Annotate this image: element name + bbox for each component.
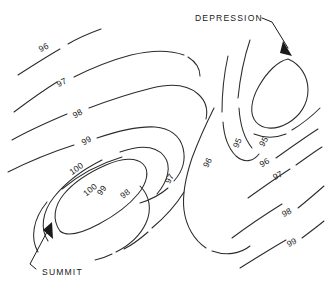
contour-96-saddle-loop-b [212,246,250,254]
contour-elevation-label-95-10: 95 [231,136,244,149]
depression-callout: DEPRESSION [195,13,292,56]
contour-elevation-label-95-11: 95 [257,135,271,149]
contour-97-saddle-left [152,192,184,228]
contour-98-lower-tail [95,254,112,260]
contour-97-saddle-left-b [124,232,148,249]
closed-contours-group [55,59,308,234]
contour-map-canvas: 9697989910010099989796959596979899 DEPRE… [0,0,326,286]
contour-elevation-label-96-9: 96 [201,156,214,169]
contour-elevation-label-99-6: 99 [95,183,109,197]
contour-elevation-label-96-0: 96 [37,41,50,54]
contour-map-figure: 9697989910010099989796959596979899 DEPRE… [0,0,326,286]
contour-97-upper-right [188,57,200,76]
contour-100-outer-summit-b [120,147,168,194]
contour-95-left-branch [222,56,228,112]
contour-labels-group: 9697989910010099989796959596979899 [37,41,298,249]
summit-leader-line [30,232,47,269]
contour-98-right-edge-b [298,186,324,208]
contour-97-upper-left-b [74,51,184,77]
contour-elevation-label-98-14: 98 [280,206,293,219]
contour-96-depression-outer-b [292,108,320,130]
contour-99-right-edge-b [302,221,324,238]
contour-elevation-label-96-12: 96 [258,156,272,170]
contour-96-upper-left-a [18,49,60,75]
contour-97-right-edge-b [296,147,322,165]
contour-95-mid-vertical [238,40,250,98]
contour-99-right-edge [240,240,286,268]
contour-98-right-edge [232,204,282,238]
depression-arrow-icon [280,41,292,56]
contour-97-right-edge [248,169,290,198]
contour-elevation-label-99-3: 99 [80,134,94,148]
contour-elevation-label-98-7: 98 [118,187,132,201]
contour-97-upper-left-a [14,82,57,112]
depression-label: DEPRESSION [195,13,263,23]
contour-elevation-label-98-2: 98 [71,107,85,121]
contour-98-upper-left-a [12,114,67,140]
contour-elevation-label-97-1: 97 [55,76,68,89]
contour-96-saddle-loop [183,108,214,248]
contour-96-upper-left-b [68,29,101,44]
summit-callout: SUMMIT [30,222,83,277]
summit-label: SUMMIT [42,267,83,277]
contour-99-left-a [8,145,74,172]
contour-99-left-b [97,127,184,181]
contour-96-depression-outer [254,134,286,137]
contour-95-depression-closed [252,59,308,128]
contour-98-upper-left-b [89,85,207,119]
contour-elevation-label-99-15: 99 [285,236,298,249]
